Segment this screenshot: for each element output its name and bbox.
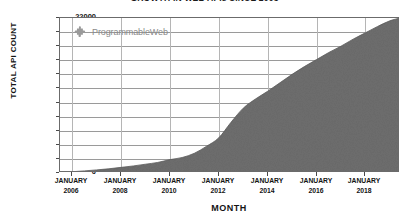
plot-area [59,17,399,172]
chart-container: GROWTH IN WEB APIs SINCE 2005 TOTAL API … [0,0,409,224]
area-series [60,18,399,172]
x-tick-year: 2018 [335,186,393,196]
x-tick-month: JANUARY [104,177,137,184]
x-tick-month: JANUARY [300,177,333,184]
x-tick-month: JANUARY [348,177,381,184]
chart-title: GROWTH IN WEB APIs SINCE 2005 [0,0,409,3]
x-tick-month: JANUARY [202,177,235,184]
x-tick-month: JANUARY [55,177,88,184]
x-tick-month: JANUARY [153,177,186,184]
y-tick-mark [56,172,59,173]
x-tick-label: JANUARY2018 [335,176,393,196]
x-axis-title: MONTH [59,203,399,213]
y-axis-title: TOTAL API COUNT [9,15,18,107]
x-tick-month: JANUARY [251,177,284,184]
